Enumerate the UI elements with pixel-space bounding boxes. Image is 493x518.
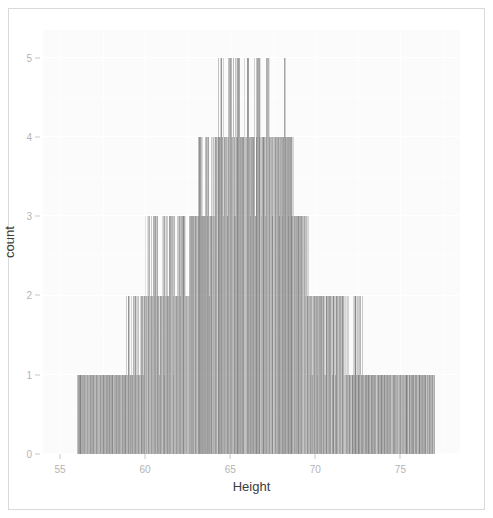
histogram-figure: 012345 5560657075 Height count [0, 0, 493, 518]
x-tick-mark-70 [315, 454, 316, 459]
bar [434, 375, 435, 454]
x-tick-mark-55 [60, 454, 61, 459]
x-tick-label-65: 65 [225, 464, 236, 475]
y-tick-mark-4 [35, 136, 40, 137]
x-tick-mark-65 [230, 454, 231, 459]
y-tick-label-0: 0 [26, 449, 32, 460]
y-axis-title-wrapper: count [2, 0, 20, 30]
y-tick-mark-5 [35, 57, 40, 58]
y-tick-mark-2 [35, 295, 40, 296]
y-tick-label-3: 3 [26, 211, 32, 222]
x-tick-mark-75 [400, 454, 401, 459]
y-tick-label-4: 4 [26, 131, 32, 142]
y-axis-title: count [2, 30, 17, 454]
y-tick-label-5: 5 [26, 52, 32, 63]
y-tick-mark-1 [35, 374, 40, 375]
y-tick-label-1: 1 [26, 369, 32, 380]
x-tick-mark-60 [145, 454, 146, 459]
x-tick-label-55: 55 [54, 464, 65, 475]
histogram-bars [43, 30, 460, 454]
x-tick-label-70: 70 [310, 464, 321, 475]
x-tick-label-75: 75 [395, 464, 406, 475]
plot-panel [43, 30, 460, 454]
y-tick-mark-3 [35, 216, 40, 217]
x-tick-label-60: 60 [140, 464, 151, 475]
y-tick-label-2: 2 [26, 290, 32, 301]
y-tick-mark-0 [35, 454, 40, 455]
x-axis-title: Height [43, 479, 460, 494]
